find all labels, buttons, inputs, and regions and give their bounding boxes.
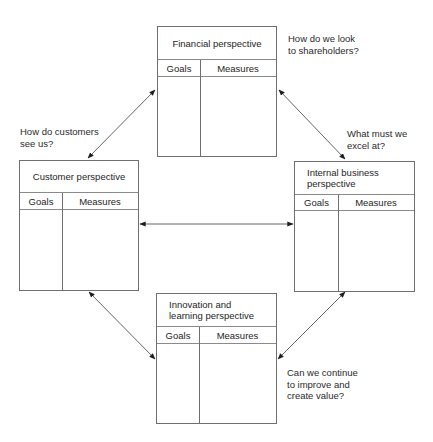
innovation-learning-perspective-box: Innovation and learning perspective Goal… [156, 293, 277, 424]
customer-measures-header: Measures [62, 193, 138, 209]
financial-question: How do we look to shareholders? [288, 33, 359, 56]
financial-perspective-box: Financial perspective Goals Measures [157, 26, 277, 157]
financial-perspective-title: Financial perspective [158, 27, 276, 60]
internal-question: What must we excel at? [347, 128, 407, 151]
customer-column-divider [62, 193, 63, 290]
internal-business-perspective-title: Internal business perspective [295, 162, 414, 195]
internal-goals-header: Goals [295, 195, 338, 210]
arrow-internal-innovation [278, 292, 345, 359]
innovation-goals-header: Goals [157, 327, 199, 343]
internal-measures-header: Measures [338, 195, 414, 210]
internal-business-perspective-box: Internal business perspective Goals Meas… [294, 161, 415, 292]
financial-goals-header: Goals [158, 60, 200, 76]
customer-perspective-title: Customer perspective [20, 161, 138, 193]
innovation-columns-header: Goals Measures [157, 327, 276, 344]
customer-perspective-box: Customer perspective Goals Measures [19, 160, 139, 291]
arrow-financial-internal [279, 90, 345, 159]
internal-column-divider [338, 195, 339, 291]
customer-columns-header: Goals Measures [20, 193, 138, 210]
customer-question: How do customers see us? [20, 126, 99, 149]
financial-column-divider [200, 60, 201, 156]
innovation-column-divider [199, 327, 200, 423]
arrow-customer-innovation [89, 292, 155, 359]
innovation-question: Can we continue to improve and create va… [287, 367, 358, 402]
financial-measures-header: Measures [200, 60, 276, 76]
innovation-measures-header: Measures [199, 327, 276, 343]
innovation-learning-perspective-title: Innovation and learning perspective [157, 294, 276, 327]
customer-goals-header: Goals [20, 193, 62, 209]
internal-columns-header: Goals Measures [295, 195, 414, 211]
financial-columns-header: Goals Measures [158, 60, 276, 77]
